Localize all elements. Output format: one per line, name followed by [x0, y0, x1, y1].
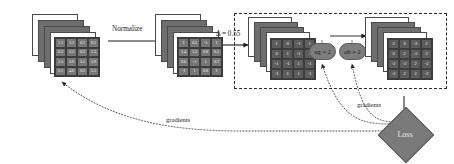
grid-cell: 0 [271, 49, 282, 59]
grid-cell: 1.4 [178, 48, 189, 58]
grid-input: 1.1 1.3 0.1 0.1 0.2 2.5 0.2 1.5 1.5 3.9 … [54, 37, 100, 77]
grid-cell: 1 [211, 67, 222, 77]
grid-cell: -1 [178, 67, 189, 77]
stack-input-feature-maps: 1.1 1.3 0.1 0.1 0.2 2.5 0.2 1.5 1.5 3.9 … [32, 14, 108, 82]
grid-cell: -1 [200, 38, 211, 48]
grid-cell: 1.5 [189, 48, 200, 58]
grid-cell: 2.5 [66, 48, 77, 58]
grid-cell: 1 [211, 38, 222, 48]
grid-cell: 2 [410, 69, 421, 79]
grid-cell: -2 [410, 49, 421, 59]
grid-cell: 2.9 [88, 57, 99, 67]
gradients-label-right: gradients [357, 101, 381, 108]
grid-cell: 1.3 [66, 38, 77, 48]
grid-cell: 0.8 [200, 67, 211, 77]
grid-cell: 2 [421, 49, 432, 59]
grid-cell: 2 [399, 49, 410, 59]
grid-cell: 2 [388, 39, 399, 49]
grid-cell: -2 [399, 59, 410, 69]
delta-label: Δ = 0.55 [216, 30, 240, 38]
grid-cell: 0.7 [211, 57, 222, 67]
stack-normalized-feature-maps: 1 0.2 -1 1 1.4 1.5 0.8 0.1 0.6 -1 1 0.7 … [155, 14, 231, 82]
grid-cell: 1 [282, 69, 293, 79]
grid-cell: 0 [399, 39, 410, 49]
grid-cell: 0.1 [88, 38, 99, 48]
grid-cell: 1 [271, 39, 282, 49]
node-alpha-g-label: αg = 2 [314, 48, 331, 55]
loss-node[interactable]: Loss [386, 115, 424, 153]
grid-cell: 2 [399, 69, 410, 79]
grid-cell: -2 [421, 69, 432, 79]
gradient-path-left [62, 82, 385, 131]
grid-cell: 0.1 [211, 48, 222, 58]
grid-cell: -1 [304, 69, 315, 79]
grid-cell: 1 [178, 38, 189, 48]
grid-cell: 1 [293, 59, 304, 69]
node-alpha-g[interactable]: αg = 2 [309, 43, 336, 60]
grid-cell: 2 [410, 59, 421, 69]
grid-cell: 1 [282, 49, 293, 59]
grid-cell: -2 [421, 59, 432, 69]
normalize-label: Normalize [112, 25, 142, 33]
grid-cell: 4.6 [66, 67, 77, 77]
grid-normalized: 1 0.2 -1 1 1.4 1.5 0.8 0.1 0.6 -1 1 0.7 … [177, 37, 223, 77]
stack-scaled-feature-maps: 2 0 -2 2 0 2 -2 2 -2 -2 2 -2 -2 2 2 -2 [365, 17, 441, 85]
grid-cell: 2 [421, 39, 432, 49]
grid-cell: 1.5 [88, 48, 99, 58]
grid-cell: 0.6 [178, 57, 189, 67]
grid-cell: 0.2 [189, 38, 200, 48]
grid-cell: -1 [293, 39, 304, 49]
node-alpha-b-label: αb = 2 [344, 48, 361, 55]
grid-cell: -2 [410, 39, 421, 49]
node-alpha-b[interactable]: αb = 2 [339, 43, 366, 60]
grid-quantized: 1 0 -1 1 0 1 -1 1 -1 -1 1 -1 -1 1 1 -1 [270, 38, 316, 80]
grid-cell: 0.1 [77, 38, 88, 48]
grid-cell: -1 [189, 57, 200, 67]
grid-cell: 0.2 [77, 67, 88, 77]
grid-cell: -1 [293, 49, 304, 59]
grid-cell: -1 [282, 59, 293, 69]
grid-cell: 2.1 [55, 67, 66, 77]
grid-cell: -2 [388, 59, 399, 69]
grid-cell: 3.9 [66, 57, 77, 67]
grid-cell: 5.5 [88, 67, 99, 77]
grid-cell: 1 [293, 69, 304, 79]
grid-cell: -1 [304, 59, 315, 69]
grid-cell: 0 [282, 39, 293, 49]
loss-label: Loss [397, 130, 412, 139]
grid-cell: 3.5 [77, 57, 88, 67]
diagram-canvas: 1.1 1.3 0.1 0.1 0.2 2.5 0.2 1.5 1.5 3.9 … [0, 0, 454, 164]
grid-scaled: 2 0 -2 2 0 2 -2 2 -2 -2 2 -2 -2 2 2 -2 [387, 38, 433, 80]
grid-cell: 0.2 [55, 48, 66, 58]
grid-cell: -1 [271, 59, 282, 69]
gradients-label-left: gradients [166, 116, 190, 123]
grid-cell: 1.5 [55, 57, 66, 67]
grid-cell: 1.1 [55, 38, 66, 48]
grid-cell: 0.8 [200, 48, 211, 58]
grid-cell: 0 [388, 49, 399, 59]
grid-cell: 1 [189, 67, 200, 77]
grid-cell: 1 [200, 57, 211, 67]
grid-cell: -1 [271, 69, 282, 79]
grid-cell: 0.2 [77, 48, 88, 58]
grid-cell: -2 [388, 69, 399, 79]
